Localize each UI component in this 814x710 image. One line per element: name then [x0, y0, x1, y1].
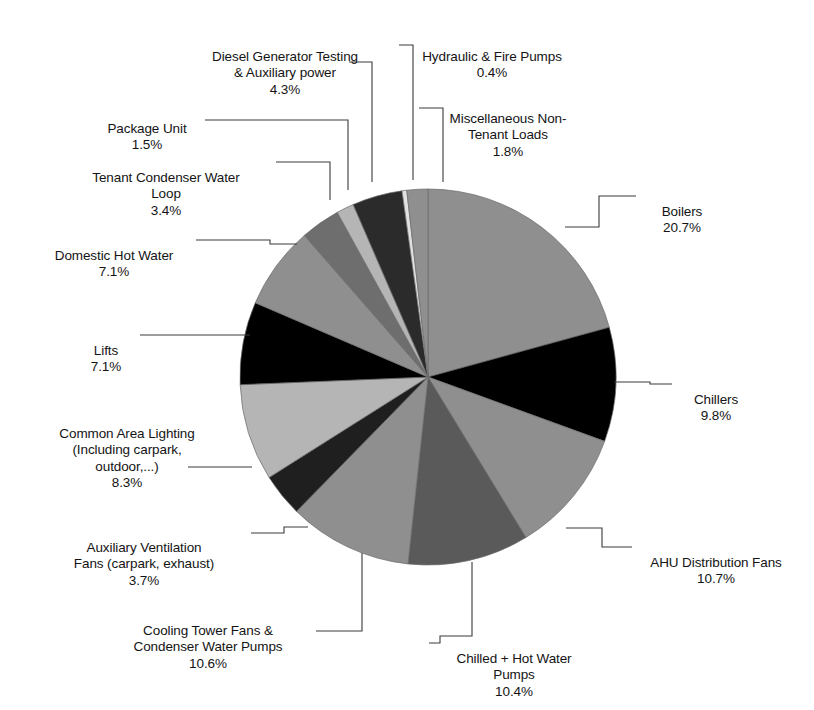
- label-hydraulic-fire-pumps-text: Hydraulic & Fire Pumps: [422, 49, 562, 64]
- leader-line-dhw: [196, 240, 297, 244]
- leader-line-aux-vent: [251, 527, 308, 533]
- label-package-unit-text: Package Unit: [107, 121, 186, 136]
- label-diesel-generator: Diesel Generator Testing & Auxiliary pow…: [185, 32, 385, 115]
- label-cooling-tower-fans-pct: 10.6%: [100, 656, 316, 673]
- leader-line-chillers: [614, 382, 672, 384]
- label-boilers-text: Boilers: [662, 204, 703, 219]
- label-diesel-generator-pct: 4.3%: [185, 82, 385, 99]
- label-hydraulic-fire-pumps-pct: 0.4%: [403, 65, 581, 82]
- label-lifts: Lifts 7.1%: [72, 326, 140, 392]
- leader-line-cooling-tower: [316, 553, 362, 631]
- label-diesel-generator-text: Diesel Generator Testing & Auxiliary pow…: [212, 49, 358, 81]
- leader-line-boilers: [565, 196, 636, 227]
- label-ahu-distribution-fans-text: AHU Distribution Fans: [650, 555, 781, 570]
- label-miscellaneous-non-tenant-loads-text: Miscellaneous Non- Tenant Loads: [450, 111, 567, 143]
- label-common-area-lighting-text: Common Area Lighting (Including carpark,…: [59, 426, 194, 474]
- label-domestic-hot-water-pct: 7.1%: [32, 264, 196, 281]
- label-tenant-condenser-water-loop-text: Tenant Condenser Water Loop: [92, 170, 239, 202]
- label-chilled-hot-water-pumps-text: Chilled + Hot Water Pumps: [456, 651, 571, 683]
- label-auxiliary-ventilation-fans: Auxiliary Ventilation Fans (carpark, exh…: [38, 523, 250, 606]
- label-boilers-pct: 20.7%: [638, 220, 726, 237]
- label-cooling-tower-fans-text: Cooling Tower Fans & Condenser Water Pum…: [134, 623, 283, 655]
- label-boilers: Boilers 20.7%: [638, 187, 726, 253]
- label-auxiliary-ventilation-fans-pct: 3.7%: [38, 573, 250, 590]
- label-chillers-pct: 9.8%: [674, 408, 758, 425]
- label-miscellaneous-non-tenant-loads: Miscellaneous Non- Tenant Loads 1.8%: [424, 94, 592, 177]
- leader-line-ahu: [566, 528, 632, 547]
- label-chillers: Chillers 9.8%: [674, 375, 758, 441]
- label-auxiliary-ventilation-fans-text: Auxiliary Ventilation Fans (carpark, exh…: [74, 540, 214, 572]
- label-domestic-hot-water-text: Domestic Hot Water: [55, 248, 173, 263]
- pie-slice-group: [240, 189, 616, 565]
- label-domestic-hot-water: Domestic Hot Water 7.1%: [32, 231, 196, 297]
- label-ahu-distribution-fans-pct: 10.7%: [634, 571, 798, 588]
- label-hydraulic-fire-pumps: Hydraulic & Fire Pumps 0.4%: [403, 32, 581, 98]
- leader-line-tenant-cw: [276, 162, 330, 200]
- label-lifts-text: Lifts: [94, 343, 118, 358]
- label-cooling-tower-fans: Cooling Tower Fans & Condenser Water Pum…: [100, 606, 316, 689]
- label-package-unit-pct: 1.5%: [88, 137, 206, 154]
- label-chilled-hot-water-pumps: Chilled + Hot Water Pumps 10.4%: [430, 634, 598, 710]
- label-chillers-text: Chillers: [694, 392, 738, 407]
- label-miscellaneous-non-tenant-loads-pct: 1.8%: [424, 144, 592, 161]
- label-tenant-condenser-water-loop-pct: 3.4%: [56, 203, 276, 220]
- label-common-area-lighting-pct: 8.3%: [33, 475, 221, 492]
- label-chilled-hot-water-pumps-pct: 10.4%: [430, 684, 598, 701]
- label-lifts-pct: 7.1%: [72, 359, 140, 376]
- label-ahu-distribution-fans: AHU Distribution Fans 10.7%: [634, 538, 798, 604]
- label-common-area-lighting: Common Area Lighting (Including carpark,…: [33, 409, 221, 508]
- leader-line-chw-hw-pumps: [429, 562, 472, 643]
- pie-chart: Diesel Generator Testing & Auxiliary pow…: [0, 0, 814, 710]
- label-tenant-condenser-water-loop: Tenant Condenser Water Loop 3.4%: [56, 153, 276, 236]
